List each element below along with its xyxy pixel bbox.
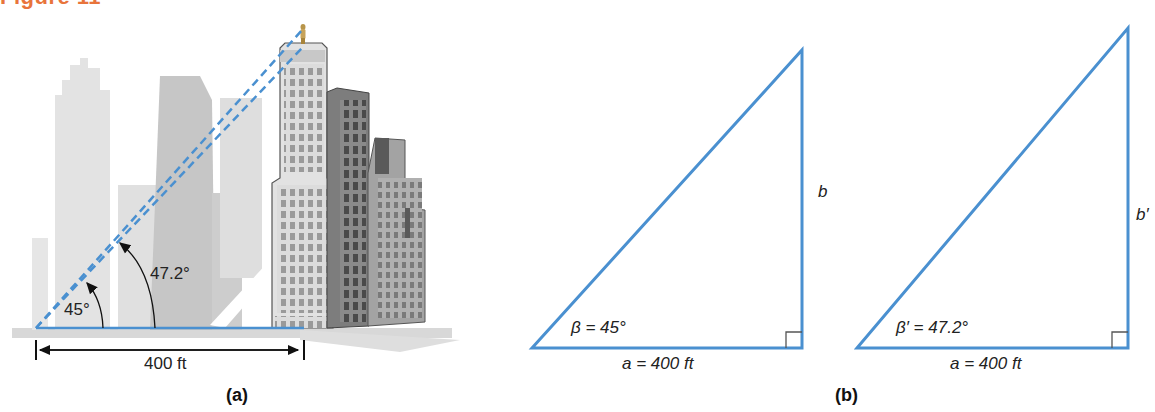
triangle-1-angle-label: β = 45°	[571, 318, 626, 338]
angle-45-label: 45°	[64, 300, 90, 320]
observer-figure-icon	[301, 24, 306, 44]
triangle-1-height-label: b	[818, 182, 827, 202]
triangle-2-base-label: a = 400 ft	[950, 354, 1021, 374]
figure-canvas	[0, 0, 1155, 412]
triangle-2	[857, 28, 1128, 348]
right-angle-marker	[786, 332, 802, 348]
observer-building	[272, 43, 333, 328]
triangle-1-base-label: a = 400 ft	[622, 354, 693, 374]
triangle-1	[532, 50, 802, 348]
triangle-2-height-label: b′	[1136, 205, 1149, 225]
triangle-2-angle-label: β′ = 47.2°	[896, 318, 968, 338]
caption-a: (a)	[226, 385, 248, 406]
caption-b: (b)	[835, 385, 858, 406]
right-angle-marker	[1112, 332, 1128, 348]
angle-47-label: 47.2°	[150, 264, 190, 284]
distance-label: 400 ft	[144, 354, 187, 374]
